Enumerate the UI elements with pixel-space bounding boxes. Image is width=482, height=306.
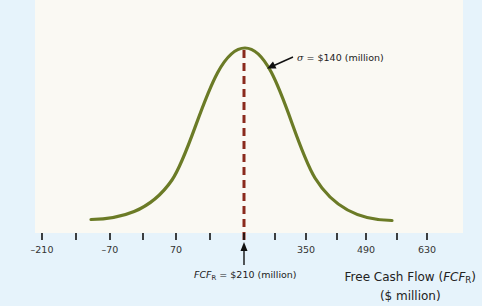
mean-annotation: FCFR = $210 (million) xyxy=(194,269,297,282)
fcf-var: FCF xyxy=(194,269,212,280)
axis-title-var: FCF xyxy=(443,270,465,284)
sigma-value: = $140 (million) xyxy=(304,52,384,63)
axis-title-close: ) xyxy=(471,270,476,284)
x-axis-ticks xyxy=(42,233,427,240)
tick-label: 630 xyxy=(418,244,436,255)
chart-svg xyxy=(0,0,482,306)
sigma-arrow-icon xyxy=(267,57,293,69)
tick-label: 490 xyxy=(357,244,375,255)
tick-label: –210 xyxy=(31,244,54,255)
tick-label: 350 xyxy=(297,244,315,255)
axis-title-text: Free Cash Flow ( xyxy=(345,270,444,284)
tick-label: 70 xyxy=(170,244,182,255)
tick-label: –70 xyxy=(102,244,119,255)
mean-arrow-icon xyxy=(241,242,248,265)
axis-title-units: ($ million) xyxy=(345,288,476,304)
sigma-annotation: σ = $140 (million) xyxy=(297,52,384,63)
fcf-value: = $210 (million) xyxy=(216,269,296,280)
x-axis-title: Free Cash Flow (FCFR) ($ million) xyxy=(345,269,476,304)
normal-distribution-curve xyxy=(91,48,392,221)
